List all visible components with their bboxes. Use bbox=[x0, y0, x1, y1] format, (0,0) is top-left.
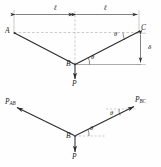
force-label-PAB: PAB bbox=[5, 98, 15, 106]
force-label-PAB-subscript: AB bbox=[10, 100, 16, 106]
angle-arc-B-bottom bbox=[88, 129, 89, 136]
point-label-B-top: B bbox=[66, 60, 71, 68]
angle-arc-C-top bbox=[123, 33, 125, 40]
force-vector-PBC bbox=[76, 107, 134, 136]
force-label-PBC: PBC bbox=[135, 96, 146, 104]
dimension-label-span-left: ℓ bbox=[54, 5, 57, 12]
force-label-P-bottom: P bbox=[72, 153, 77, 161]
angle-label-theta-at-C: θ bbox=[114, 31, 117, 38]
force-label-PBC-subscript: BC bbox=[140, 98, 146, 104]
node-A bbox=[14, 32, 16, 34]
bottom-diagram-group bbox=[17, 107, 136, 153]
point-label-C: C bbox=[141, 24, 146, 32]
point-label-B-bottom: B bbox=[66, 132, 71, 140]
truss-nodes bbox=[14, 31, 140, 66]
truss-members bbox=[15, 32, 140, 65]
angle-label-theta-at-B-top: θ bbox=[91, 54, 94, 61]
member-BC bbox=[76, 32, 140, 65]
angle-label-theta-at-PBC: θ bbox=[110, 110, 113, 117]
point-label-A: A bbox=[5, 27, 10, 35]
diagram-canvas bbox=[0, 0, 161, 167]
dimension-extension-lines bbox=[14, 10, 139, 34]
node-C bbox=[138, 31, 140, 33]
load-label-P-top: P bbox=[72, 80, 77, 88]
angle-label-theta-at-B-bottom: θ bbox=[90, 125, 93, 132]
dimension-label-deflection-delta: δ bbox=[148, 44, 151, 51]
fbd-node-B bbox=[74, 135, 76, 137]
figure-container: ℓ ℓ A C θ δ θ B P PAB PBC θ θ B P bbox=[0, 0, 161, 167]
dimension-label-span-right: ℓ bbox=[104, 5, 107, 12]
dimension-deflection-delta bbox=[136, 33, 146, 64]
top-diagram-group bbox=[14, 10, 146, 79]
angle-arc-B-top bbox=[88, 57, 89, 64]
